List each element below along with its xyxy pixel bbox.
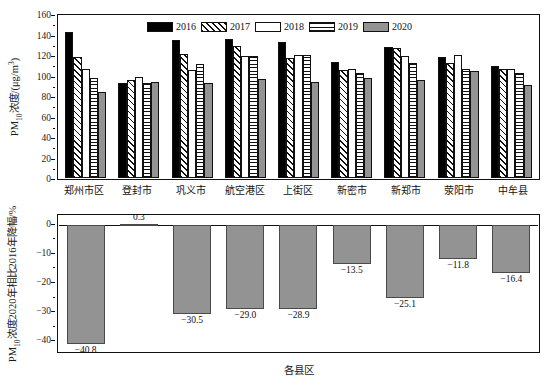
bottom-y-tick-mark xyxy=(51,311,55,312)
bar-2016 xyxy=(491,66,499,178)
decline-bar-value-label: −13.5 xyxy=(341,265,363,275)
legend-swatch-2020 xyxy=(363,22,389,32)
legend-label: 2020 xyxy=(392,21,412,32)
decline-bar-value-label: 0.3 xyxy=(133,214,145,222)
bar-2016 xyxy=(118,83,126,178)
top-category-label: 新郑市 xyxy=(380,182,432,197)
decline-bar xyxy=(386,225,424,298)
decline-bar-value-label: −29.0 xyxy=(234,310,256,320)
bar-2020 xyxy=(364,78,372,178)
legend-item: 2016 xyxy=(147,21,196,32)
decline-bar xyxy=(279,225,317,309)
top-y-tick-label: 140 xyxy=(37,31,51,41)
bottom-y-minor-tick xyxy=(53,297,56,298)
bar-2020 xyxy=(417,80,425,178)
bar-2017 xyxy=(499,69,507,178)
bar-2018 xyxy=(241,56,249,178)
bar-2018 xyxy=(348,69,356,178)
top-bar-group xyxy=(172,16,213,178)
legend-label: 2016 xyxy=(176,21,196,32)
bottom-bar-group: −29.0 xyxy=(226,216,264,351)
top-y-minor-tick xyxy=(53,128,56,129)
top-bar-group xyxy=(331,16,372,178)
bar-2017 xyxy=(233,46,241,178)
top-y-minor-tick xyxy=(53,66,56,67)
top-bar-groups xyxy=(59,16,538,178)
legend-item: 2019 xyxy=(309,21,358,32)
bottom-y-tick-mark xyxy=(51,253,55,254)
top-y-minor-tick xyxy=(53,87,56,88)
bar-2019 xyxy=(143,83,151,178)
decline-bar-value-label: −25.1 xyxy=(394,299,416,309)
top-y-tick-mark xyxy=(51,138,55,139)
top-chart-panel: PM10浓度/(μg/m3) 160140120100806040200 201… xyxy=(57,14,540,180)
bar-2018 xyxy=(454,55,462,178)
top-category-labels: 郑州市区登封市巩义市航空港区上街区新密市新郑市荥阳市中牟县 xyxy=(57,182,540,197)
top-category-label: 登封市 xyxy=(111,182,163,197)
top-y-tick-label: 60 xyxy=(42,113,52,123)
decline-bar xyxy=(439,225,477,259)
top-y-minor-tick xyxy=(53,46,56,47)
bar-2017 xyxy=(286,58,294,178)
legend-item: 2017 xyxy=(201,21,250,32)
bar-2018 xyxy=(188,70,196,178)
decline-bar xyxy=(120,224,158,226)
bottom-bar-group: −25.1 xyxy=(386,216,424,351)
bar-2018 xyxy=(135,77,143,178)
top-y-minor-tick xyxy=(53,25,56,26)
bottom-x-axis-title: 各县区 xyxy=(57,362,540,377)
bottom-bar-group: −28.9 xyxy=(279,216,317,351)
bar-2019 xyxy=(462,69,470,178)
decline-bar xyxy=(226,225,264,310)
top-bar-group xyxy=(438,16,479,178)
bar-2017 xyxy=(127,80,135,178)
bottom-y-minor-tick xyxy=(53,326,56,327)
decline-bar-value-label: −28.9 xyxy=(287,310,309,320)
top-plot-area xyxy=(57,14,540,180)
top-category-label: 荥阳市 xyxy=(433,182,485,197)
top-bar-group xyxy=(384,16,425,178)
bar-2018 xyxy=(82,69,90,178)
bar-2016 xyxy=(331,62,339,178)
bottom-bar-group: 0.3 xyxy=(120,216,158,351)
bottom-y-tick-label: −30 xyxy=(36,306,51,316)
chart-page: PM10浓度/(μg/m3) 160140120100806040200 201… xyxy=(0,0,556,391)
bottom-bar-group: −16.4 xyxy=(492,216,530,351)
bottom-bar-group: −11.8 xyxy=(439,216,477,351)
legend-label: 2017 xyxy=(230,21,250,32)
bar-2018 xyxy=(507,69,515,178)
bar-2020 xyxy=(151,82,159,178)
bar-2019 xyxy=(90,78,98,178)
legend-swatch-2018 xyxy=(255,22,281,32)
top-y-minor-tick xyxy=(53,148,56,149)
bar-2020 xyxy=(470,71,478,178)
top-y-tick-mark xyxy=(51,179,55,180)
decline-bar xyxy=(333,225,371,264)
bar-2020 xyxy=(311,82,319,178)
bottom-y-tick-mark xyxy=(51,224,55,225)
top-category-label: 上街区 xyxy=(272,182,324,197)
top-category-label: 巩义市 xyxy=(165,182,217,197)
bar-2016 xyxy=(172,40,180,178)
legend-swatch-2017 xyxy=(201,22,227,32)
bar-2018 xyxy=(294,55,302,178)
bottom-y-tick-label: −20 xyxy=(36,277,51,287)
decline-bar xyxy=(173,225,211,314)
decline-bar-value-label: −30.5 xyxy=(181,315,203,325)
decline-bar xyxy=(67,225,105,344)
bar-2017 xyxy=(446,63,454,178)
bottom-bar-group: −30.5 xyxy=(173,216,211,351)
bar-2019 xyxy=(409,63,417,178)
top-y-tick-mark xyxy=(51,15,55,16)
decline-bar xyxy=(492,225,530,273)
bar-2017 xyxy=(180,54,188,178)
legend-item: 2018 xyxy=(255,21,304,32)
legend-label: 2019 xyxy=(338,21,358,32)
bottom-y-tick-label: −10 xyxy=(36,248,51,258)
bottom-y-tick-mark xyxy=(51,282,55,283)
bar-2016 xyxy=(65,32,73,178)
top-bar-group xyxy=(278,16,319,178)
bar-2019 xyxy=(356,73,364,178)
bar-2017 xyxy=(339,70,347,178)
top-y-tick-label: 80 xyxy=(42,92,52,102)
